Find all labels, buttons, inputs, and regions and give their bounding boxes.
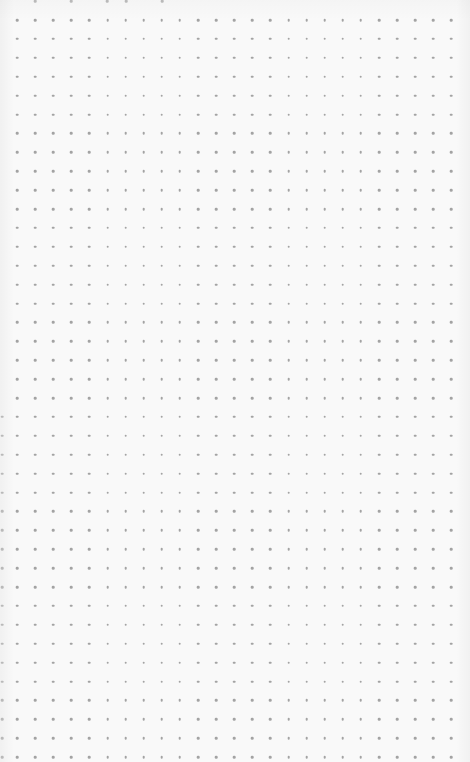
grid-dot: [124, 567, 127, 570]
grid-dot: [287, 699, 290, 702]
grid-dot: [124, 680, 127, 683]
grid-dot: [215, 170, 218, 173]
grid-dot: [125, 0, 128, 2]
grid-dot: [142, 19, 145, 22]
grid-dot: [287, 94, 290, 97]
grid-dot: [34, 57, 37, 60]
grid-dot: [323, 605, 326, 608]
grid-dot: [233, 661, 236, 664]
grid-dot: [287, 624, 290, 627]
grid-dot: [233, 416, 236, 419]
grid-dot: [16, 359, 19, 362]
grid-dot: [360, 302, 363, 305]
grid-dot: [378, 737, 381, 740]
grid-dot: [70, 491, 73, 494]
grid-dot: [179, 605, 182, 608]
grid-dot: [323, 586, 326, 589]
grid-dot: [142, 453, 145, 456]
grid-dot: [179, 75, 182, 78]
grid-dot: [378, 264, 381, 267]
grid-dot: [323, 453, 326, 456]
grid-dot: [414, 340, 417, 343]
grid-dot: [179, 642, 182, 645]
grid-dot: [432, 624, 435, 627]
grid-dot: [34, 567, 37, 570]
grid-dot: [251, 340, 254, 343]
grid-dot: [161, 491, 164, 494]
grid-dot: [1, 567, 4, 570]
grid-dot: [432, 756, 435, 759]
grid-dot: [360, 586, 363, 589]
grid-dot: [106, 567, 109, 570]
grid-dot: [233, 208, 236, 211]
grid-dot: [161, 151, 164, 154]
grid-dot: [124, 75, 127, 78]
grid-dot: [378, 453, 381, 456]
grid-dot: [233, 472, 236, 475]
grid-dot: [34, 189, 37, 192]
grid-dot: [88, 435, 91, 438]
grid-dot: [287, 605, 290, 608]
grid-dot: [432, 567, 435, 570]
grid-dot: [396, 321, 399, 324]
grid-dot: [251, 605, 254, 608]
grid-dot: [197, 75, 200, 78]
grid-dot: [323, 718, 326, 721]
grid-dot: [342, 737, 345, 740]
grid-dot: [34, 416, 37, 419]
grid-dot: [124, 435, 127, 438]
grid-dot: [269, 132, 272, 135]
grid-dot: [106, 151, 109, 154]
grid-dot: [342, 661, 345, 664]
grid-dot: [378, 510, 381, 513]
grid-dot: [305, 208, 308, 211]
grid-dot: [52, 699, 55, 702]
grid-dot: [305, 359, 308, 362]
grid-dot: [414, 397, 417, 400]
grid-dot: [197, 661, 200, 664]
grid-dot: [450, 340, 453, 343]
grid-dot: [251, 94, 254, 97]
grid-dot: [215, 435, 218, 438]
grid-dot: [161, 132, 164, 135]
grid-dot: [161, 605, 164, 608]
grid-dot: [124, 416, 127, 419]
grid-dot: [342, 19, 345, 22]
grid-dot: [251, 208, 254, 211]
grid-dot: [450, 19, 453, 22]
grid-dot: [360, 416, 363, 419]
grid-dot: [251, 132, 254, 135]
grid-dot: [233, 321, 236, 324]
grid-dot: [197, 359, 200, 362]
grid-dot: [287, 57, 290, 60]
grid-dot: [269, 567, 272, 570]
grid-dot: [16, 113, 19, 116]
grid-dot: [124, 170, 127, 173]
grid-dot: [396, 132, 399, 135]
grid-dot: [215, 586, 218, 589]
grid-dot: [106, 529, 109, 532]
grid-dot: [179, 699, 182, 702]
grid-dot: [269, 586, 272, 589]
grid-dot: [305, 548, 308, 551]
grid-dot: [396, 19, 399, 22]
grid-dot: [142, 189, 145, 192]
grid-dot: [396, 57, 399, 60]
grid-dot: [323, 227, 326, 230]
grid-dot: [142, 397, 145, 400]
grid-dot: [124, 113, 127, 116]
grid-dot: [34, 75, 37, 78]
grid-dot: [16, 605, 19, 608]
grid-dot: [106, 189, 109, 192]
grid-dot: [70, 624, 73, 627]
grid-dot: [269, 718, 272, 721]
grid-dot: [70, 113, 73, 116]
grid-dot: [378, 57, 381, 60]
grid-dot: [52, 189, 55, 192]
grid-dot: [16, 321, 19, 324]
grid-dot: [360, 38, 363, 41]
grid-dot: [179, 416, 182, 419]
grid-dot: [124, 661, 127, 664]
grid-dot: [450, 208, 453, 211]
grid-dot: [378, 699, 381, 702]
